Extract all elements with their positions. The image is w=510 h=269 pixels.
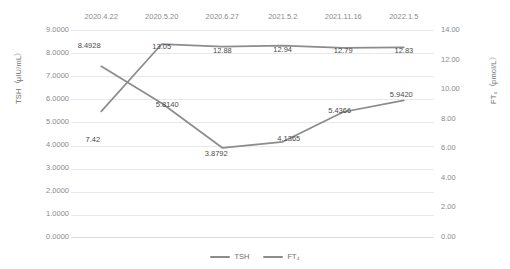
data-label-ft4: 8.4928 [78, 42, 101, 50]
data-label-tsh: 3.8792 [205, 150, 228, 158]
series-line-ft4 [101, 44, 404, 111]
data-label-ft4: 12.83 [394, 47, 413, 55]
legend-item-ft4[interactable]: FT₄ [263, 253, 299, 261]
left-axis-tick-label: 6.0000 [46, 95, 69, 103]
left-axis-tick-label: 4.0000 [46, 141, 69, 149]
right-axis-tick-label: 2.00 [441, 203, 456, 211]
data-label-ft4: 12.79 [334, 47, 353, 55]
data-label-tsh: 5.8140 [156, 101, 179, 109]
left-axis-tick-label: 1.0000 [46, 210, 69, 218]
data-label-tsh: 5.4366 [328, 107, 351, 115]
right-axis-tick-label: 0.00 [441, 233, 456, 241]
legend-label-tsh: TSH [234, 253, 249, 261]
plot-area: 7.42 5.8140 3.8792 4.1365 5.4366 5.9420 … [71, 30, 434, 238]
data-label-tsh: 4.1365 [277, 135, 300, 143]
x-axis-labels: 2020.4.22 2020.5.20 2020.6.27 2021.5.2 2… [71, 12, 434, 24]
left-axis-tick-label: 8.0000 [46, 49, 69, 57]
right-axis-tick-label: 8.00 [441, 115, 456, 123]
left-axis-tick-label: 2.0000 [46, 187, 69, 195]
chart-legend: TSH FT₄ [0, 253, 510, 261]
x-axis-tick-label: 2022.1.5 [389, 12, 418, 21]
right-axis-title: FT₄（pmol/L） [487, 53, 498, 104]
left-axis-title: TSH（μIU/mL） [12, 48, 23, 104]
x-axis-tick-label: 2020.5.20 [145, 12, 178, 21]
legend-item-tsh[interactable]: TSH [210, 253, 249, 261]
legend-swatch-icon [263, 256, 283, 258]
right-axis-tick-label: 10.00 [441, 85, 460, 93]
right-axis-tick-label: 6.00 [441, 144, 456, 152]
right-axis-tick-label: 12.00 [441, 56, 460, 64]
left-axis-tick-label: 5.0000 [46, 118, 69, 126]
chart-container: 2020.4.22 2020.5.20 2020.6.27 2021.5.2 2… [0, 0, 510, 269]
right-axis-tick-label: 4.00 [441, 174, 456, 182]
data-label-tsh: 5.9420 [390, 91, 413, 99]
left-axis-tick-label: 3.0000 [46, 164, 69, 172]
data-label-ft4: 12.94 [273, 46, 292, 54]
left-axis-tick-label: 7.0000 [46, 72, 69, 80]
data-label-ft4: 13.05 [152, 43, 171, 51]
right-axis-tick-label: 14.00 [441, 26, 460, 34]
legend-swatch-icon [210, 256, 230, 258]
data-label-ft4: 12.88 [213, 47, 232, 55]
left-axis-tick-label: 0.0000 [46, 233, 69, 241]
x-axis-tick-label: 2021.5.2 [268, 12, 297, 21]
x-axis-tick-label: 2020.6.27 [206, 12, 239, 21]
series-line-tsh [101, 66, 404, 147]
x-axis-tick-label: 2020.4.22 [85, 12, 118, 21]
left-axis-tick-label: 9.0000 [46, 26, 69, 34]
series-lines [71, 30, 434, 238]
legend-label-ft4: FT₄ [287, 253, 299, 261]
data-label-tsh: 7.42 [85, 136, 100, 144]
x-axis-tick-label: 2021.11.16 [325, 12, 362, 21]
